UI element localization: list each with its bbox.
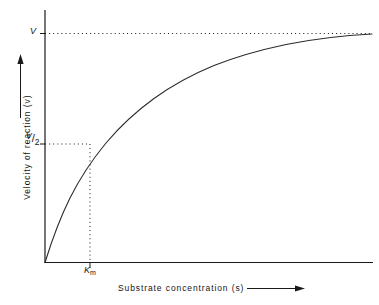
km-tick-label: Km [84, 266, 96, 275]
km-subscript: m [90, 269, 96, 276]
x-axis-arrow [247, 285, 305, 291]
plot-canvas [0, 0, 379, 305]
reaction-velocity-curve [45, 119, 373, 262]
y-axis-title: Velocity of reaction (v) [23, 62, 32, 232]
x-axis-title: Substrate concentration (s) [118, 284, 244, 293]
half-v-max-denominator: 2 [35, 138, 40, 147]
reaction-velocity-curve-main [45, 34, 372, 263]
half-v-max-tick-label: V/2 [26, 133, 39, 144]
michaelis-menten-figure: Velocity of reaction (v) Substrate conce… [0, 0, 379, 305]
v-max-tick-label: V [30, 27, 36, 36]
